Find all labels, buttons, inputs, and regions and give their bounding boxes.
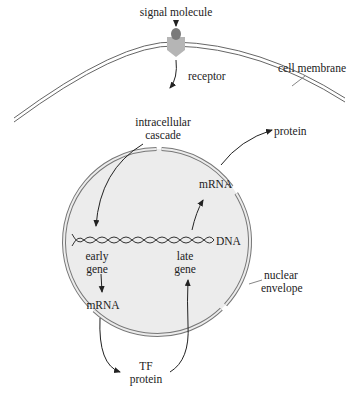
label-envelope: envelope bbox=[261, 282, 303, 295]
signal-transduction-diagram: signal molecule receptor cell membrane i… bbox=[0, 0, 357, 399]
label-late: late bbox=[177, 250, 194, 262]
label-tf-protein: protein bbox=[130, 373, 163, 386]
label-cell-membrane: cell membrane bbox=[278, 62, 346, 74]
arrow-mrna-to-protein bbox=[221, 130, 272, 165]
label-dna: DNA bbox=[216, 235, 242, 247]
receptor-icon bbox=[167, 28, 185, 57]
label-intracellular: intracellular bbox=[135, 116, 191, 128]
label-protein-top: protein bbox=[274, 125, 307, 138]
label-early: early bbox=[86, 250, 109, 263]
arrow-receptor-to-cascade bbox=[170, 60, 176, 88]
signal-molecule-icon bbox=[171, 28, 181, 40]
nucleus bbox=[31, 116, 283, 368]
label-early-gene: gene bbox=[86, 263, 108, 276]
label-mrna-bottom: mRNA bbox=[86, 299, 120, 311]
label-late-gene: gene bbox=[174, 263, 196, 276]
label-cascade: cascade bbox=[145, 129, 181, 141]
label-receptor: receptor bbox=[188, 70, 226, 83]
label-nuclear: nuclear bbox=[264, 269, 298, 281]
label-tf: TF bbox=[139, 360, 152, 372]
label-mrna-top: mRNA bbox=[199, 178, 233, 190]
label-signal-molecule: signal molecule bbox=[140, 6, 213, 19]
